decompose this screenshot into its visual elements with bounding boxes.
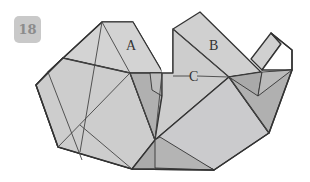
label-c: C: [189, 69, 198, 84]
label-a: A: [126, 38, 137, 53]
label-b: B: [209, 38, 218, 53]
origami-model-diagram: A B C: [0, 0, 310, 182]
